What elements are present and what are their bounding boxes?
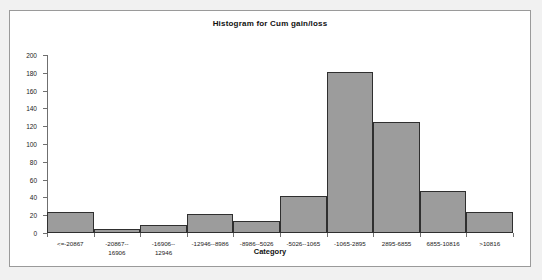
x-axis-tick	[513, 233, 514, 237]
x-axis-tick	[140, 233, 141, 237]
y-axis-tick-label: 0	[33, 230, 37, 237]
histogram-bar	[280, 196, 327, 233]
y-axis-tick-label: 40	[30, 194, 37, 201]
x-axis-tick	[187, 233, 188, 237]
y-axis-tick: 40	[43, 197, 48, 198]
histogram-bar	[233, 221, 280, 233]
x-axis-tick	[280, 233, 281, 237]
plot-area: 020406080100120140160180200 <=-20867-208…	[47, 55, 513, 233]
y-axis-tick-label: 120	[26, 123, 37, 130]
y-axis-tick-label: 20	[30, 212, 37, 219]
y-axis-tick-label: 60	[30, 176, 37, 183]
x-axis-tick	[233, 233, 234, 237]
y-axis-tick-label: 100	[26, 141, 37, 148]
y-axis-tick: 100	[43, 144, 48, 145]
y-axis-tick: 200	[43, 55, 48, 56]
x-axis-tick	[47, 233, 48, 237]
histogram-bar	[94, 229, 141, 233]
y-axis-tick: 160	[43, 91, 48, 92]
y-axis-tick-label: 140	[26, 105, 37, 112]
histogram-bar	[373, 122, 420, 233]
y-axis-tick: 140	[43, 108, 48, 109]
histogram-bar	[187, 214, 234, 233]
histogram-bar	[140, 225, 187, 233]
x-axis-title: Category	[10, 247, 530, 256]
y-axis-tick: 180	[43, 73, 48, 74]
y-axis-tick-label: 80	[30, 158, 37, 165]
y-axis-tick: 120	[43, 126, 48, 127]
histogram-bar	[420, 191, 467, 233]
chart-frame: Histogram for Cum gain/loss 020406080100…	[9, 10, 531, 267]
histogram-bar	[466, 212, 513, 233]
x-axis-tick	[94, 233, 95, 237]
histogram-bar	[327, 72, 374, 233]
chart-page: Histogram for Cum gain/loss 020406080100…	[0, 0, 542, 280]
y-axis-tick-label: 160	[26, 87, 37, 94]
x-axis-tick	[420, 233, 421, 237]
x-axis-tick	[327, 233, 328, 237]
y-axis-tick-label: 200	[26, 52, 37, 59]
y-axis-tick: 80	[43, 162, 48, 163]
x-axis-tick	[466, 233, 467, 237]
histogram-bar	[47, 212, 94, 233]
x-axis-tick	[373, 233, 374, 237]
y-axis-tick: 60	[43, 180, 48, 181]
y-axis-tick-label: 180	[26, 69, 37, 76]
chart-title: Histogram for Cum gain/loss	[10, 19, 530, 28]
